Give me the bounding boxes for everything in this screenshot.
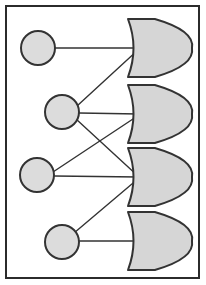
connection-line — [54, 176, 139, 177]
input-node-circle[interactable] — [45, 95, 79, 129]
input-node-circle[interactable] — [20, 158, 54, 192]
input-node-circle[interactable] — [21, 31, 55, 65]
input-node-circle[interactable] — [45, 225, 79, 259]
connection-line — [79, 113, 139, 114]
logic-network-diagram — [0, 0, 206, 285]
diagram-canvas — [0, 0, 206, 285]
